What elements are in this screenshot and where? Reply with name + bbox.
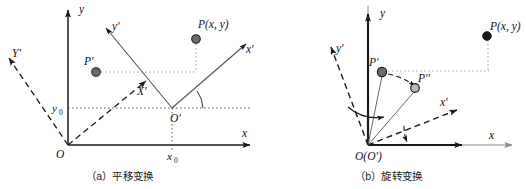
figure-container: y x Y' X' y' x' O O' P(x, y) P' y 0 x 0 <box>0 0 526 189</box>
panel-a-label-origin-prime: O' <box>170 112 181 124</box>
panel-b-label-y: y <box>379 7 386 20</box>
panel-a-label-x: x <box>241 127 248 139</box>
panel-a-point-P-prime <box>92 68 101 77</box>
panel-b-label-x-prime: x' <box>439 96 448 108</box>
panel-a-label-y0-base: y <box>51 102 57 114</box>
panel-b-caption: （b）旋转变换 <box>355 168 422 183</box>
panel-a-label-y: y <box>78 3 85 16</box>
transform-diagrams-svg: y x Y' X' y' x' O O' P(x, y) P' y 0 x 0 <box>0 0 526 189</box>
panel-a-label-x0-base: x <box>166 150 172 162</box>
panel-b-point-P <box>483 32 492 41</box>
panel-a-label-point-P-prime: P' <box>83 55 94 67</box>
panel-a-label-x0-subscript: 0 <box>174 156 178 165</box>
panel-a-label-origin: O <box>56 148 65 160</box>
panel-b-label-point-P: P(x, y) <box>489 20 521 33</box>
panel-b-label-point-P-dprime: P'' <box>417 72 430 84</box>
panel-a-caption: （a）平移变换 <box>86 168 153 183</box>
panel-a-label-x-prime: x' <box>245 43 254 55</box>
panel-b-label-y-prime: y' <box>335 42 344 55</box>
panel-a-point-P <box>192 35 201 44</box>
panel-a-label-Y-prime: Y' <box>12 47 21 59</box>
panel-b-label-x: x <box>488 129 495 141</box>
panel-a-label-X-prime: X' <box>136 85 147 97</box>
panel-b-point-P-prime <box>377 67 386 76</box>
panel-b-point-P-dprime <box>411 84 420 93</box>
canvas-background <box>0 0 526 189</box>
panel-b-label-origin: O(O') <box>355 150 382 163</box>
panel-a-label-y-prime: y' <box>111 20 120 33</box>
panel-a-label-y0-subscript: 0 <box>59 108 63 117</box>
panel-b-label-point-P-prime: P' <box>368 56 379 68</box>
panel-a-label-point-P: P(x, y) <box>197 18 229 31</box>
